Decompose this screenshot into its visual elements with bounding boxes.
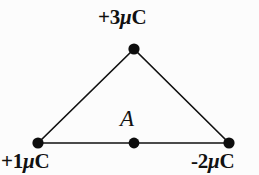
charge-label-top-text: +3μC: [98, 5, 147, 29]
charge-dot-bottom-right: [223, 137, 234, 148]
charge-label-bottom-right-text: -2μC: [191, 149, 235, 173]
charge-dot-top: [128, 43, 139, 54]
micro-symbol: μ: [208, 149, 219, 173]
charge-label-bottom-right: -2μC: [191, 151, 235, 172]
charge-label-top: +3μC: [98, 7, 147, 28]
micro-symbol: μ: [23, 149, 34, 173]
charge-label-bottom-left: +1μC: [1, 151, 50, 172]
point-a-dot: [129, 138, 140, 149]
charge-label-bottom-left-text: +1μC: [1, 149, 50, 173]
charge-triangle-figure: +3μC +1μC -2μC A: [0, 0, 259, 175]
micro-symbol: μ: [120, 5, 131, 29]
charge-dot-bottom-left: [32, 137, 43, 148]
point-a-label: A: [120, 107, 134, 130]
triangle-right-edge: [134, 49, 229, 143]
